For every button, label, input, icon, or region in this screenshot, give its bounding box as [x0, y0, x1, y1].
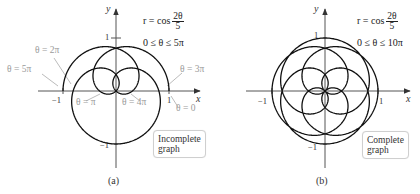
note-line2-b: graph — [367, 145, 404, 155]
annotation-theta-5pi: θ = 5π — [7, 64, 31, 74]
y-axis-label-a: y — [106, 3, 110, 14]
equation-fraction-b: 2θ5 — [386, 12, 397, 31]
y-tick-label-1-a: 1 — [105, 32, 109, 42]
y-tick-label-1-b: 1 — [314, 30, 318, 40]
x-tick-label-neg1-a: −1 — [52, 95, 61, 105]
equation-lhs-b: r = cos — [357, 15, 384, 26]
annotation-theta-pi: θ = π — [76, 97, 95, 107]
x-axis-label-b: x — [406, 93, 410, 104]
annotation-theta-4pi: θ = 4π — [122, 97, 146, 107]
x-tick-label-1-b: 1 — [379, 96, 383, 106]
annotation-theta-3pi: θ = 3π — [180, 64, 204, 74]
fraction-denominator-b: 5 — [386, 22, 397, 31]
note-incomplete-graph: Incomplete graph — [153, 130, 206, 158]
note-complete-graph: Complete graph — [362, 131, 409, 159]
x-axis-label-a: x — [196, 93, 200, 104]
panel-label-b: (b) — [316, 175, 328, 186]
y-tick-label-neg1-b: −1 — [308, 142, 317, 152]
x-tick-label-neg1-b: −1 — [258, 96, 267, 106]
domain-a: 0 ≤ θ ≤ 5π — [143, 37, 184, 48]
equation-lhs-a: r = cos — [143, 15, 170, 26]
panel-label-a: (a) — [108, 175, 119, 186]
equation-fraction-a: 2θ5 — [172, 12, 183, 31]
leader-5pi — [42, 74, 58, 86]
note-line1-b: Complete — [367, 135, 404, 145]
x-tick-label-1-a: 1 — [167, 95, 171, 105]
equation-a: r = cos2θ5 — [143, 12, 184, 31]
leader-2pi — [54, 58, 71, 84]
leader-3pi — [167, 73, 182, 86]
domain-b: 0 ≤ θ ≤ 10π — [357, 37, 403, 48]
note-line2-a: graph — [158, 144, 201, 154]
fraction-denominator-a: 5 — [172, 22, 183, 31]
annotation-theta-0: θ = 0 — [176, 103, 195, 113]
note-line1-a: Incomplete — [158, 134, 201, 144]
y-tick-label-neg1-a: −1 — [100, 140, 109, 150]
y-axis-label-b: y — [314, 3, 318, 14]
equation-b: r = cos2θ5 — [357, 12, 398, 31]
annotation-theta-2pi: θ = 2π — [35, 45, 59, 55]
